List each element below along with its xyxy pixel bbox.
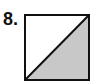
problem-number: 8.	[3, 10, 18, 28]
fraction-square-figure	[24, 14, 90, 81]
square-diagram	[24, 14, 90, 81]
